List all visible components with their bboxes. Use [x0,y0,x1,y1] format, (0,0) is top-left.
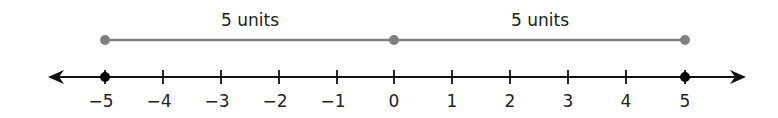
tick-label: 2 [505,91,516,111]
tick-labels: −5 −4 −3 −2 −1 0 1 2 3 4 5 [88,91,690,111]
tick-label: 0 [389,91,400,111]
distance-segments: 5 units 5 units [100,10,690,45]
axis [48,70,746,84]
tick-label: −5 [88,91,113,111]
segment-label-right: 5 units [511,10,569,30]
tick-label: 4 [621,91,632,111]
tick-label: 3 [563,91,574,111]
number-line-diagram: 5 units 5 units −5 −4 −3 −2 −1 0 1 2 3 4… [0,0,778,118]
point-neg5 [100,72,110,82]
segment-label-left: 5 units [221,10,279,30]
tick-label: −1 [320,91,345,111]
segment-endpoint [100,35,110,45]
tick-label: −2 [262,91,287,111]
tick-label: −4 [146,91,171,111]
tick-label: 1 [447,91,458,111]
tick-label: 5 [680,91,691,111]
tick-label: −3 [204,91,229,111]
segment-endpoint [680,35,690,45]
segment-endpoint [389,35,399,45]
point-5 [680,72,690,82]
